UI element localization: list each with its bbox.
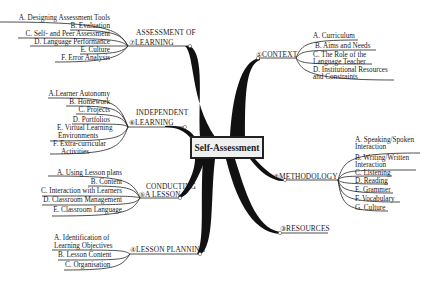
central-node-label: Self-Assessment	[195, 143, 260, 153]
context-item-a[interactable]: A. Curriculum	[313, 33, 355, 40]
branch-independent-line1[interactable]: INDEPENDENT	[136, 109, 188, 116]
branch-independent-line2[interactable]: ⑥LEARNING	[129, 119, 174, 126]
methodology-item-d[interactable]: D. Reading	[355, 178, 388, 185]
conducting-item-b[interactable]: B. Content	[91, 179, 122, 186]
planning-item-b[interactable]: B. Lesson Content	[58, 252, 111, 259]
conducting-item-e[interactable]: E. Classroom Language	[53, 207, 122, 214]
conducting-item-c[interactable]: C. Interaction with Learners	[41, 188, 122, 195]
context-item-d-cont: and Constraints	[313, 74, 358, 81]
conducting-item-d[interactable]: D. Classroom Management	[43, 197, 122, 204]
branch-assessment-line2[interactable]: ⑦LEARNING	[129, 39, 174, 46]
planning-item-c[interactable]: C. Organisation	[65, 262, 110, 269]
planning-item-a-cont: Learning Objectives	[54, 243, 112, 250]
methodology-item-f[interactable]: F. Vocabulary	[355, 196, 394, 203]
independent-item-c[interactable]: C. Projects	[78, 107, 110, 114]
branch-context[interactable]: ①CONTEXT	[256, 51, 297, 58]
branch-resources[interactable]: ③RESOURCES	[280, 225, 330, 232]
assessment-item-f[interactable]: F. Error Analysis	[61, 55, 110, 62]
mind-map: Self-Assessment ASSESSMENT OF ⑦LEARNING …	[0, 0, 438, 290]
methodology-item-e[interactable]: E. Grammer	[355, 187, 391, 194]
branch-methodology[interactable]: ②METHODOLOGY	[273, 173, 338, 180]
central-node[interactable]: Self-Assessment	[190, 136, 264, 159]
methodology-item-g[interactable]: G. Culture	[355, 205, 385, 212]
branch-conducting-line2[interactable]: ⑤A LESSON	[139, 191, 181, 198]
branch-assessment-line1[interactable]: ASSESSMENT OF	[136, 29, 196, 36]
branch-planning[interactable]: ④LESSON PLANNING	[130, 246, 205, 253]
methodology-item-a-cont: Interaction	[355, 144, 386, 151]
independent-item-f-cont: Activities	[61, 149, 89, 156]
context-item-b[interactable]: B. Aims and Needs	[315, 43, 371, 50]
conducting-item-a[interactable]: A. Using Lesson plans	[57, 170, 122, 177]
